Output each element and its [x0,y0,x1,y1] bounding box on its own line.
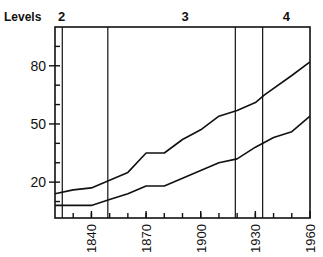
level-label: 2 [58,9,65,24]
series-line-lower [55,116,310,205]
series-line-upper [55,62,310,194]
x-tick-label: 1840 [84,224,99,253]
level-boundaries [62,27,262,218]
x-tick-label: 1900 [194,224,209,253]
x-tick-label: 1870 [139,224,154,253]
level-label: 4 [283,9,291,24]
y-tick-label: 80 [30,58,46,74]
series-lines [55,62,310,206]
plot-frame [55,27,310,218]
line-chart: 234 Levels 205080 18401870190019301960 [0,0,323,257]
x-tick-label: 1960 [303,224,318,253]
x-tick-label: 1930 [248,224,263,253]
y-axis-title: Levels [4,10,42,24]
y-tick-label: 50 [30,116,46,132]
level-label: 3 [182,9,189,24]
level-labels: 234 [58,9,291,24]
y-tick-label: 20 [30,174,46,190]
